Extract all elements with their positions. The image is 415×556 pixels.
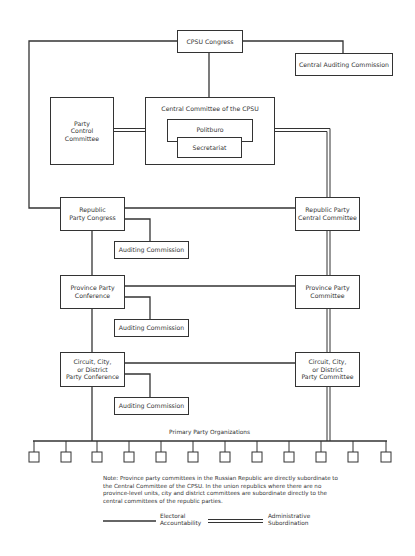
republic-auditing-commission-box: Auditing Commission [114, 241, 189, 259]
district-party-conference-label: Circuit, City, or District Party Confere… [66, 358, 119, 381]
province-auditing-commission-box: Auditing Commission [114, 319, 189, 337]
district-auditing-commission-box: Auditing Commission [114, 397, 189, 415]
central-auditing-commission-box: Central Auditing Commission [295, 53, 393, 76]
district-auditing-commission-label: Auditing Commission [119, 402, 185, 410]
primary-party-organizations-label: Primary Party Organizations [169, 429, 250, 435]
party-control-committee-box: Party Control Committee [50, 97, 114, 165]
republic-party-central-committee-box: Republic Party Central Committee [295, 197, 360, 231]
footnote: Note: Province party committees in the R… [103, 475, 343, 505]
cpsu-congress-label: CPSU Congress [186, 38, 233, 46]
party-control-committee-label: Party Control Committee [65, 120, 99, 143]
district-party-committee-label: Circuit, City, or District Party Committ… [301, 358, 353, 381]
legend-administrative-label: Administrative Subordination [268, 513, 310, 528]
secretariat-label: Secretariat [192, 144, 226, 152]
central-auditing-commission-label: Central Auditing Commission [299, 61, 389, 69]
province-party-committee-box: Province Party Committee [295, 275, 360, 309]
legend-electoral-label: Electoral Accountability [160, 513, 201, 528]
secretariat-box: Secretariat [177, 137, 242, 158]
province-auditing-commission-label: Auditing Commission [119, 324, 185, 332]
province-party-committee-label: Province Party Committee [305, 284, 349, 299]
republic-auditing-commission-label: Auditing Commission [119, 246, 185, 254]
cpsu-congress-box: CPSU Congress [177, 30, 243, 53]
central-committee-label: Central Committee of the CPSU [161, 105, 258, 113]
politburo-label: Politburo [196, 126, 223, 134]
province-party-conference-label: Province Party Conference [70, 284, 114, 299]
republic-party-congress-label: Republic Party Congress [69, 206, 115, 221]
republic-party-congress-box: Republic Party Congress [60, 197, 125, 231]
province-party-conference-box: Province Party Conference [60, 275, 125, 309]
primary-org-boxes [29, 441, 391, 462]
republic-party-central-committee-label: Republic Party Central Committee [298, 206, 357, 221]
district-party-conference-box: Circuit, City, or District Party Confere… [60, 352, 125, 387]
district-party-committee-box: Circuit, City, or District Party Committ… [295, 352, 360, 387]
